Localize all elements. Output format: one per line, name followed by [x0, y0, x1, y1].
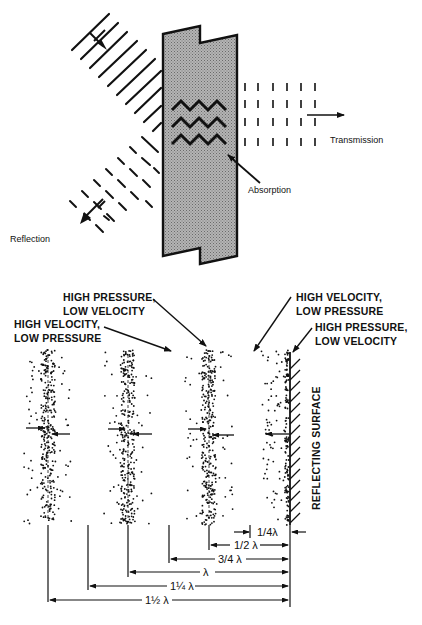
absorbing-panel	[163, 26, 237, 264]
hp-lv-label-1b: LOW VELOCITY	[63, 305, 145, 317]
incident-wavefronts	[72, 14, 161, 131]
dim-label-one-quarter: 1¼ λ	[170, 580, 194, 592]
velocity-arrows	[26, 428, 289, 435]
absorption-label: Absorption	[248, 185, 291, 195]
hv-lp-label-1a: HIGH VELOCITY,	[14, 318, 100, 330]
bottom-diagram: HIGH PRESSURE, LOW VELOCITY HIGH VELOCIT…	[14, 291, 408, 607]
hp-lv-label-2b: LOW VELOCITY	[315, 335, 397, 347]
dim-label-one-half: 1½ λ	[145, 594, 169, 606]
dim-label-one: λ	[203, 566, 209, 578]
reflection-label: Reflection	[10, 234, 50, 244]
hp-lv-label-1a: HIGH PRESSURE,	[63, 291, 156, 303]
hv-lp-label-2b: LOW PRESSURE	[296, 305, 384, 317]
particle-columns	[23, 349, 290, 526]
transmission-label: Transmission	[330, 135, 383, 145]
hv-lp-label-2a: HIGH VELOCITY,	[296, 291, 382, 303]
reflection-arrow-icon	[80, 199, 105, 224]
transmitted-wavefronts	[245, 83, 315, 146]
top-diagram: Transmission Absorption Reflection	[10, 14, 383, 264]
hv-lp-label-1b: LOW PRESSURE	[14, 332, 102, 344]
hp-lv-label-2a: HIGH PRESSURE,	[315, 321, 408, 333]
dim-label-three-quarter: 3/4 λ	[218, 553, 242, 565]
reflecting-surface-label: REFLECTING SURFACE	[310, 386, 322, 510]
sound-wave-diagram: Transmission Absorption Reflection	[0, 0, 422, 625]
dim-label-quarter: 1/4λ	[257, 526, 278, 538]
reflecting-surface	[290, 352, 300, 525]
dim-label-half: 1/2 λ	[234, 539, 258, 551]
